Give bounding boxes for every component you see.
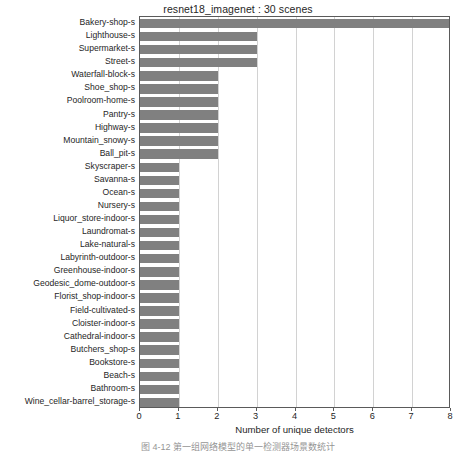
y-tick-label: Street-s bbox=[0, 57, 135, 66]
bar-fill bbox=[140, 332, 179, 341]
bar-fill bbox=[140, 372, 179, 381]
y-tick-label: Cathedral-indoor-s bbox=[0, 332, 135, 341]
x-tick-label: 0 bbox=[136, 411, 141, 421]
y-tick-label: Laundromat-s bbox=[0, 227, 135, 236]
bar-fill bbox=[140, 32, 257, 41]
y-tick-label: Ocean-s bbox=[0, 188, 135, 197]
y-tick-label: Wine_cellar-barrel_storage-s bbox=[0, 397, 135, 406]
y-tick-label: Liquor_store-indoor-s bbox=[0, 214, 135, 223]
chart-title: resnet18_imagenet : 30 scenes bbox=[0, 3, 476, 15]
y-tick-label: Savanna-s bbox=[0, 175, 135, 184]
bar[interactable] bbox=[140, 123, 218, 132]
bar-fill bbox=[140, 228, 179, 237]
bar[interactable] bbox=[140, 319, 179, 328]
bar[interactable] bbox=[140, 241, 179, 250]
bar[interactable] bbox=[140, 293, 179, 302]
bar[interactable] bbox=[140, 398, 179, 407]
y-tick-label: Waterfall-block-s bbox=[0, 70, 135, 79]
bar[interactable] bbox=[140, 215, 179, 224]
bar-fill bbox=[140, 163, 179, 172]
bar[interactable] bbox=[140, 385, 179, 394]
y-tick-label: Florist_shop-indoor-s bbox=[0, 292, 135, 301]
bar[interactable] bbox=[140, 189, 179, 198]
bar-fill bbox=[140, 202, 179, 211]
y-tick-label: Shoe_shop-s bbox=[0, 83, 135, 92]
bar[interactable] bbox=[140, 84, 218, 93]
bar[interactable] bbox=[140, 97, 218, 106]
bar-fill bbox=[140, 176, 179, 185]
bar[interactable] bbox=[140, 372, 179, 381]
bar[interactable] bbox=[140, 228, 179, 237]
bar[interactable] bbox=[140, 176, 179, 185]
y-tick-label: Greenhouse-indoor-s bbox=[0, 266, 135, 275]
bar-fill bbox=[140, 149, 218, 158]
y-tick-label: Lake-natural-s bbox=[0, 240, 135, 249]
figure-caption: 图 4-12 第一组网络模型的单一检测器场景数统计 bbox=[0, 440, 476, 453]
bar-fill bbox=[140, 319, 179, 328]
x-tick-label: 1 bbox=[175, 411, 180, 421]
x-tick-label: 2 bbox=[214, 411, 219, 421]
bar[interactable] bbox=[140, 110, 218, 119]
y-tick-label: Field-cultivated-s bbox=[0, 306, 135, 315]
bar-fill bbox=[140, 241, 179, 250]
bar[interactable] bbox=[140, 149, 218, 158]
x-axis-tick-labels: 012345678 bbox=[139, 411, 450, 425]
y-axis-tick-labels: Bakery-shop-sLighthouse-sSupermarket-sSt… bbox=[0, 16, 135, 408]
bar-fill bbox=[140, 84, 218, 93]
bar-fill bbox=[140, 189, 179, 198]
bar-fill bbox=[140, 45, 257, 54]
bar[interactable] bbox=[140, 306, 179, 315]
bar[interactable] bbox=[140, 267, 179, 276]
bar-fill bbox=[140, 385, 179, 394]
bar-fill bbox=[140, 71, 218, 80]
bar-fill bbox=[140, 110, 218, 119]
bar-fill bbox=[140, 19, 450, 28]
x-tick-label: 6 bbox=[370, 411, 375, 421]
bar[interactable] bbox=[140, 202, 179, 211]
y-tick-label: Beach-s bbox=[0, 371, 135, 380]
x-tick-label: 5 bbox=[331, 411, 336, 421]
y-tick-label: Labyrinth-outdoor-s bbox=[0, 253, 135, 262]
bar[interactable] bbox=[140, 71, 218, 80]
bar[interactable] bbox=[140, 45, 257, 54]
y-tick-label: Pantry-s bbox=[0, 110, 135, 119]
x-tick-label: 3 bbox=[253, 411, 258, 421]
y-tick-label: Butchers_shop-s bbox=[0, 345, 135, 354]
y-tick-label: Supermarket-s bbox=[0, 44, 135, 53]
bar-fill bbox=[140, 123, 218, 132]
bar[interactable] bbox=[140, 32, 257, 41]
y-tick-label: Highway-s bbox=[0, 123, 135, 132]
bar-fill bbox=[140, 58, 257, 67]
bar[interactable] bbox=[140, 19, 450, 28]
bar-fill bbox=[140, 97, 218, 106]
y-tick-label: Skyscraper-s bbox=[0, 162, 135, 171]
bar-fill bbox=[140, 254, 179, 263]
y-tick-label: Poolroom-home-s bbox=[0, 96, 135, 105]
x-axis-label: Number of unique detectors bbox=[139, 424, 450, 435]
y-tick-label: Bathroom-s bbox=[0, 384, 135, 393]
y-tick-label: Geodesic_dome-outdoor-s bbox=[0, 279, 135, 288]
bar[interactable] bbox=[140, 345, 179, 354]
bar-fill bbox=[140, 136, 218, 145]
bar-fill bbox=[140, 359, 179, 368]
bar[interactable] bbox=[140, 163, 179, 172]
x-tick-label: 8 bbox=[447, 411, 452, 421]
x-tick-label: 7 bbox=[409, 411, 414, 421]
bar[interactable] bbox=[140, 254, 179, 263]
bar-fill bbox=[140, 293, 179, 302]
bar[interactable] bbox=[140, 332, 179, 341]
bar[interactable] bbox=[140, 136, 218, 145]
y-tick-label: Nursery-s bbox=[0, 201, 135, 210]
y-tick-label: Lighthouse-s bbox=[0, 31, 135, 40]
bar-fill bbox=[140, 398, 179, 407]
bar-series bbox=[140, 17, 449, 407]
bar-fill bbox=[140, 215, 179, 224]
y-tick-label: Bookstore-s bbox=[0, 358, 135, 367]
bar[interactable] bbox=[140, 359, 179, 368]
bar[interactable] bbox=[140, 58, 257, 67]
bar-fill bbox=[140, 267, 179, 276]
bar[interactable] bbox=[140, 280, 179, 289]
bar-fill bbox=[140, 345, 179, 354]
y-tick-label: Bakery-shop-s bbox=[0, 18, 135, 27]
